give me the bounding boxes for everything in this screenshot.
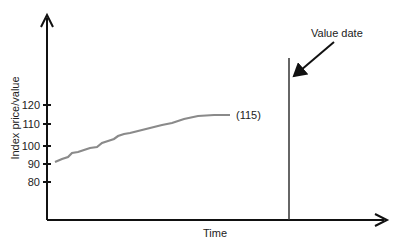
x-axis-label: Time — [203, 227, 227, 239]
end-value-label: (115) — [236, 109, 261, 121]
y-axis-label: Index price/value — [9, 76, 21, 159]
chart: 120 110 100 90 80 Index price/value (115… — [0, 0, 396, 246]
value-date-label: Value date — [311, 27, 363, 39]
tick-110: 110 — [22, 118, 40, 130]
value-date-arrow-icon — [294, 42, 334, 76]
tick-80: 80 — [28, 176, 40, 188]
index-price-line — [55, 115, 230, 162]
tick-120: 120 — [22, 99, 40, 111]
tick-90: 90 — [28, 158, 40, 170]
tick-100: 100 — [22, 140, 40, 152]
